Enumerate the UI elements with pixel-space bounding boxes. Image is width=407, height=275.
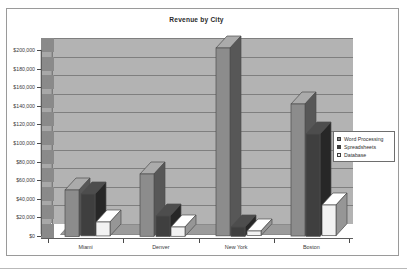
gridline-depth: [41, 150, 54, 164]
gridline: [52, 38, 353, 39]
bar-boston-database[interactable]: [322, 193, 347, 236]
legend-label: Database: [344, 152, 366, 158]
bar-denver-database[interactable]: [171, 215, 196, 236]
bar-new-york-database[interactable]: [247, 219, 272, 236]
gridline-depth: [41, 205, 54, 219]
y-axis-line: [41, 50, 42, 236]
gridline-depth: [41, 94, 54, 108]
x-axis-tick: [349, 239, 350, 243]
page-bottom-rule: [0, 268, 407, 269]
chart-legend[interactable]: Word ProcessingSpreadsheetsDatabase: [333, 131, 395, 162]
y-axis-label: $100,000: [0, 140, 35, 146]
y-axis-label: $120,000: [0, 121, 35, 127]
y-axis-label: $140,000: [0, 103, 35, 109]
gridline-depth: [41, 168, 54, 182]
x-axis-line: [41, 238, 353, 239]
legend-swatch-icon: [337, 137, 341, 141]
legend-label: Word Processing: [344, 136, 383, 142]
y-axis-label: $40,000: [0, 196, 35, 202]
gridline-depth: [41, 112, 54, 126]
y-axis-label: $200,000: [0, 47, 35, 53]
y-axis-label: $160,000: [0, 84, 35, 90]
gridline: [52, 75, 353, 76]
x-axis-tick: [123, 239, 124, 243]
gridline-depth: [41, 224, 54, 238]
gridline-depth: [41, 57, 54, 71]
legend-item-database[interactable]: Database: [337, 151, 392, 158]
gridline-depth: [41, 131, 54, 145]
legend-swatch-icon: [337, 153, 341, 157]
gridline-depth: [41, 38, 54, 52]
chart-title: Revenue by City: [0, 16, 393, 23]
x-axis-tick: [199, 239, 200, 243]
x-axis-tick: [48, 239, 49, 243]
bar-new-york-word-processing[interactable]: [216, 36, 241, 236]
legend-item-word-processing[interactable]: Word Processing: [337, 135, 392, 142]
x-axis-label-boston: Boston: [286, 244, 336, 250]
plot-area: [41, 38, 353, 240]
x-axis-label-miami: Miami: [61, 244, 111, 250]
y-axis-tick: [37, 236, 41, 237]
legend-label: Spreadsheets: [344, 144, 376, 150]
legend-swatch-icon: [337, 145, 341, 149]
y-axis-label: $60,000: [0, 177, 35, 183]
y-axis-label: $20,000: [0, 214, 35, 220]
x-axis-label-new-york: New York: [211, 244, 261, 250]
gridline-depth: [41, 75, 54, 89]
chart-page: Revenue by City $0$20,000$40,000$60,000$…: [0, 0, 407, 275]
x-axis-tick: [274, 239, 275, 243]
y-axis-label: $80,000: [0, 159, 35, 165]
y-axis-label: $180,000: [0, 66, 35, 72]
legend-item-spreadsheets[interactable]: Spreadsheets: [337, 143, 392, 150]
gridline-depth: [41, 187, 54, 201]
bar-miami-database[interactable]: [96, 210, 121, 236]
gridline: [52, 57, 353, 58]
x-axis-label-denver: Denver: [136, 244, 186, 250]
y-axis-label: $0: [0, 233, 35, 239]
